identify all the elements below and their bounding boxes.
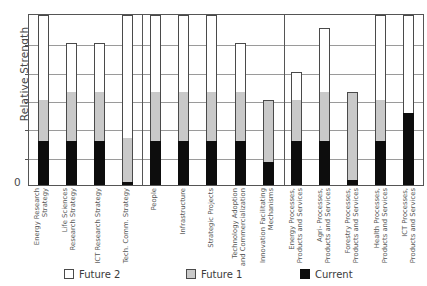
x-axis-label: ICT Processes, Products and Services [402, 188, 417, 263]
x-axis-label: Health Processes, Products and Services [374, 188, 389, 263]
category-label-slot: Infrastructure [169, 188, 197, 260]
bar-segment-current [122, 182, 133, 185]
bar-slot [142, 15, 170, 185]
category-label-slot: Life Sciences Research Strategy [56, 188, 84, 260]
legend-label: Future 2 [79, 269, 120, 280]
bar-segment-future-2 [122, 15, 133, 138]
stacked-bar[interactable] [291, 72, 302, 185]
bar-slot [310, 15, 338, 185]
x-axis-label: Tech. Comm. Strategy [123, 188, 131, 263]
category-label-slot: Forestry Processes, Products and Service… [339, 188, 367, 260]
category-label-slot: Strategic Projects [198, 188, 226, 260]
bar-segment-future-2 [206, 15, 217, 92]
bar-segment-future-2 [291, 72, 302, 100]
bar-slot [339, 15, 367, 185]
bar-segment-future-2 [94, 43, 105, 91]
bar-segment-future-1 [375, 100, 386, 141]
bar-segment-future-1 [94, 92, 105, 142]
bar-segment-current [206, 141, 217, 185]
bar-slot [170, 15, 198, 185]
bar-slot [113, 15, 141, 185]
y-axis-tick-label-0: 0 [14, 176, 21, 188]
stacked-bar[interactable] [122, 15, 133, 185]
x-axis-label: Energy Research Strategy [35, 188, 50, 245]
bar-segment-current [375, 141, 386, 185]
bar-segment-future-1 [291, 100, 302, 141]
stacked-bar[interactable] [66, 43, 77, 185]
bar-segment-future-1 [235, 92, 246, 142]
black-square-icon [300, 269, 310, 279]
category-label-slot: ICT Processes, Products and Services [396, 188, 424, 260]
x-axis-label: Strategic Projects [208, 188, 216, 248]
legend-label: Current [315, 269, 353, 280]
bar-segment-future-1 [263, 100, 274, 162]
stacked-bar[interactable] [38, 15, 49, 185]
bar-segment-future-1 [178, 92, 189, 142]
stacked-bar[interactable] [319, 28, 330, 185]
bar-slot [367, 15, 395, 185]
stacked-bar[interactable] [178, 15, 189, 185]
stacked-bar[interactable] [206, 15, 217, 185]
bar-segment-current [178, 141, 189, 185]
category-label-slot: ICT Research Strategy [85, 188, 113, 260]
bar-segment-current [291, 141, 302, 185]
bar-segment-future-2 [375, 15, 386, 100]
bar-segment-current [403, 113, 414, 185]
stacked-bar-chart: Relative Strength 0 Energy Research Stra… [0, 0, 427, 286]
category-label-slot: Energy Research Strategy [28, 188, 56, 260]
bar-segment-future-1 [347, 92, 358, 180]
stacked-bar[interactable] [403, 15, 414, 185]
x-axis-label: Agri- Processes, Products and Services [317, 188, 332, 263]
x-axis-label: Energy Processes, Products and Services [289, 188, 304, 263]
bar-segment-future-2 [319, 28, 330, 92]
white-square-icon [64, 269, 74, 279]
category-label-slot: Tech. Comm. Strategy [113, 188, 141, 260]
bar-segment-current [38, 141, 49, 185]
bar-segment-future-1 [319, 92, 330, 142]
bar-segment-future-1 [122, 138, 133, 182]
bar-slot [282, 15, 310, 185]
stacked-bar[interactable] [235, 43, 246, 185]
category-label-slot: Agri- Processes, Products and Services [311, 188, 339, 260]
legend-item-current: Current [300, 269, 353, 280]
x-axis-label: Life Sciences Research Strategy [63, 188, 78, 250]
bar-segment-future-2 [66, 43, 77, 91]
x-axis-label: Innovation Facilitating Mechanisms [261, 188, 276, 263]
bar-segment-future-1 [66, 92, 77, 142]
stacked-bar[interactable] [263, 100, 274, 185]
legend-label: Future 1 [201, 269, 242, 280]
bar-segment-current [66, 141, 77, 185]
bar-segment-future-2 [403, 15, 414, 113]
bar-segment-future-2 [150, 15, 161, 92]
x-axis-label: ICT Research Strategy [95, 188, 103, 264]
bar-series-container [29, 15, 423, 185]
x-axis-category-labels: Energy Research StrategyLife Sciences Re… [28, 188, 424, 260]
x-axis-label: Technology Adoption and Commercializatio… [233, 188, 248, 266]
stacked-bar[interactable] [94, 43, 105, 185]
bar-segment-current [347, 180, 358, 185]
legend-item-future-2: Future 2 [64, 269, 120, 280]
category-label-slot: Energy Processes, Products and Services [283, 188, 311, 260]
bar-segment-current [94, 141, 105, 185]
stacked-bar[interactable] [347, 92, 358, 185]
bar-segment-current [319, 141, 330, 185]
bar-slot [85, 15, 113, 185]
x-axis-label: People [151, 188, 159, 211]
bar-slot [254, 15, 282, 185]
bar-slot [29, 15, 57, 185]
category-label-slot: People [141, 188, 169, 260]
category-label-slot: Technology Adoption and Commercializatio… [226, 188, 254, 260]
x-axis-label: Infrastructure [180, 188, 188, 235]
bar-segment-future-1 [150, 92, 161, 142]
bar-slot [57, 15, 85, 185]
bar-segment-future-1 [206, 92, 217, 142]
bar-slot [226, 15, 254, 185]
stacked-bar[interactable] [150, 15, 161, 185]
category-label-slot: Innovation Facilitating Mechanisms [254, 188, 282, 260]
bar-segment-future-1 [38, 100, 49, 141]
bar-slot [198, 15, 226, 185]
bar-segment-future-2 [38, 15, 49, 100]
bar-segment-current [150, 141, 161, 185]
stacked-bar[interactable] [375, 15, 386, 185]
x-axis-label: Forestry Processes, Products and Service… [346, 188, 361, 263]
